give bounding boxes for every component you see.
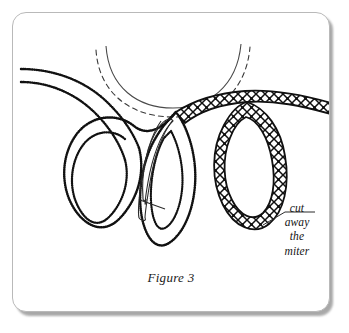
figure-screenshot: cut away the miter Figure 3 <box>0 0 349 333</box>
figure-card: cut away the miter Figure 3 <box>12 12 330 312</box>
ribbon-tail-left-lower-edge <box>21 82 125 160</box>
annotation-line-3: the <box>271 229 323 243</box>
ribbon-tail-left <box>21 69 139 160</box>
annotation-cut-away-the-miter: cut away the miter <box>271 201 323 258</box>
annotation-line-1: cut <box>271 201 323 215</box>
annotation-line-2: away <box>271 215 323 229</box>
figure-illustration <box>13 13 330 312</box>
neckline-dashed-arc <box>96 47 250 117</box>
annotation-line-4: miter <box>271 244 323 258</box>
figure-caption: Figure 3 <box>13 270 329 286</box>
neckline-group <box>96 44 250 117</box>
